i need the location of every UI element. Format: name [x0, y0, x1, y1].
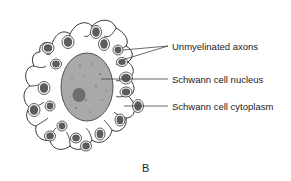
schwann-cell-nucleus: [61, 53, 113, 121]
label-unmyelinated-axons: Unmyelinated axons: [172, 41, 258, 52]
panel-letter: B: [142, 162, 149, 174]
nucleolus: [73, 88, 86, 102]
label-schwann-cell-nucleus: Schwann cell nucleus: [172, 74, 263, 85]
label-schwann-cell-cytoplasm: Schwann cell cytoplasm: [172, 101, 273, 112]
schwann-cell-diagram: [0, 0, 291, 181]
